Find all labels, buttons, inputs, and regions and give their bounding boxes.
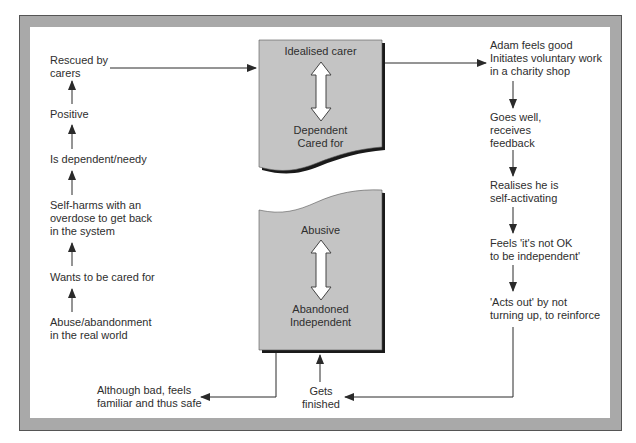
- left-node-self-harms: Self-harms with an overdose to get back …: [50, 199, 152, 238]
- left-node-wants-care: Wants to be cared for: [50, 271, 155, 284]
- node-gets-finished: Gets finished: [300, 385, 342, 411]
- bottom-card-top-label: Abusive: [259, 224, 382, 237]
- arrow-card-to-familiar: [201, 353, 276, 397]
- left-node-rescued: Rescued by carers: [50, 54, 108, 80]
- right-node-realises: Realises he is self-activating: [490, 179, 558, 205]
- right-node-not-ok: Feels 'it's not OK to be independent': [490, 237, 580, 263]
- left-node-dependent: Is dependent/needy: [50, 153, 147, 166]
- right-node-goes-well: Goes well, receives feedback: [490, 111, 541, 150]
- node-familiar-safe: Although bad, feels familiar and thus sa…: [97, 384, 202, 410]
- right-node-adam: Adam feels good Initiates voluntary work…: [490, 39, 602, 78]
- bottom-card-bottom-label: Abandoned Independent: [259, 303, 382, 329]
- top-card-top-label: Idealised carer: [259, 45, 382, 58]
- left-node-positive: Positive: [50, 108, 89, 121]
- left-node-abuse: Abuse/abandonment in the real world: [50, 316, 152, 342]
- top-card-bottom-label: Dependent Cared for: [259, 124, 382, 150]
- top-card: [259, 40, 385, 173]
- right-node-acts-out: 'Acts out' by not turning up, to reinfor…: [490, 296, 600, 322]
